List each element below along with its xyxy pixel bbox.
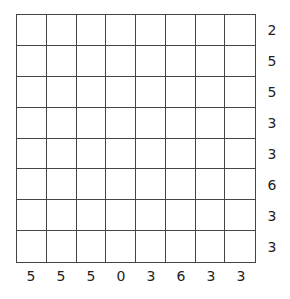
column-clue-6: 6 — [166, 265, 196, 287]
grid-cell-r6-c6[interactable] — [166, 169, 196, 200]
grid-cell-r4-c3[interactable] — [77, 108, 107, 139]
grid-cell-r3-c5[interactable] — [136, 77, 166, 108]
row-clue-8: 3 — [262, 232, 282, 263]
grid-cell-r7-c7[interactable] — [196, 200, 226, 231]
row-clue-4: 3 — [262, 107, 282, 138]
grid-cell-r3-c1[interactable] — [17, 77, 47, 108]
grid-cell-r1-c3[interactable] — [77, 15, 107, 46]
row-clue-2: 5 — [262, 45, 282, 76]
grid-cell-r2-c2[interactable] — [47, 46, 77, 77]
row-clue-3: 5 — [262, 76, 282, 107]
grid-cell-r7-c1[interactable] — [17, 200, 47, 231]
grid-cell-r2-c7[interactable] — [196, 46, 226, 77]
grid-cell-r4-c8[interactable] — [225, 108, 255, 139]
grid-cell-r6-c8[interactable] — [225, 169, 255, 200]
grid-cell-r1-c5[interactable] — [136, 15, 166, 46]
row-clue-6: 6 — [262, 170, 282, 201]
grid-cell-r3-c8[interactable] — [225, 77, 255, 108]
grid-cell-r3-c3[interactable] — [77, 77, 107, 108]
grid-cell-r2-c8[interactable] — [225, 46, 255, 77]
grid-cell-r8-c7[interactable] — [196, 231, 226, 262]
column-clue-2: 5 — [46, 265, 76, 287]
grid-cell-r5-c5[interactable] — [136, 139, 166, 170]
grid-cell-r5-c4[interactable] — [106, 139, 136, 170]
grid-cell-r6-c4[interactable] — [106, 169, 136, 200]
row-clue-5: 3 — [262, 139, 282, 170]
grid-cell-r1-c2[interactable] — [47, 15, 77, 46]
column-clue-3: 5 — [76, 265, 106, 287]
grid-cell-r2-c5[interactable] — [136, 46, 166, 77]
grid-cell-r8-c2[interactable] — [47, 231, 77, 262]
column-clues: 55503633 — [16, 265, 256, 287]
grid-cell-r2-c1[interactable] — [17, 46, 47, 77]
grid-cell-r7-c3[interactable] — [77, 200, 107, 231]
grid-cell-r5-c2[interactable] — [47, 139, 77, 170]
grid-cell-r5-c1[interactable] — [17, 139, 47, 170]
grid-cell-r8-c3[interactable] — [77, 231, 107, 262]
grid-cell-r2-c4[interactable] — [106, 46, 136, 77]
column-clue-5: 3 — [136, 265, 166, 287]
grid-cell-r6-c2[interactable] — [47, 169, 77, 200]
grid-cell-r4-c6[interactable] — [166, 108, 196, 139]
column-clue-8: 3 — [226, 265, 256, 287]
grid-cell-r6-c3[interactable] — [77, 169, 107, 200]
grid-cell-r2-c6[interactable] — [166, 46, 196, 77]
grid-cell-r4-c2[interactable] — [47, 108, 77, 139]
grid-cell-r7-c6[interactable] — [166, 200, 196, 231]
grid-cell-r2-c3[interactable] — [77, 46, 107, 77]
puzzle-grid — [16, 14, 256, 263]
row-clue-1: 2 — [262, 14, 282, 45]
grid-cell-r4-c1[interactable] — [17, 108, 47, 139]
grid-cell-r3-c6[interactable] — [166, 77, 196, 108]
grid-cell-r8-c8[interactable] — [225, 231, 255, 262]
grid-cell-r8-c4[interactable] — [106, 231, 136, 262]
grid-cell-r5-c8[interactable] — [225, 139, 255, 170]
grid-cell-r5-c3[interactable] — [77, 139, 107, 170]
grid-cell-r8-c1[interactable] — [17, 231, 47, 262]
row-clue-7: 3 — [262, 201, 282, 232]
grid-cell-r1-c7[interactable] — [196, 15, 226, 46]
grid-cell-r6-c5[interactable] — [136, 169, 166, 200]
grid-cell-r6-c7[interactable] — [196, 169, 226, 200]
grid-cell-r6-c1[interactable] — [17, 169, 47, 200]
grid-cell-r3-c7[interactable] — [196, 77, 226, 108]
grid-cell-r4-c5[interactable] — [136, 108, 166, 139]
column-clue-1: 5 — [16, 265, 46, 287]
column-clue-7: 3 — [196, 265, 226, 287]
column-clue-4: 0 — [106, 265, 136, 287]
row-clues: 25533633 — [262, 14, 282, 263]
grid-cell-r7-c2[interactable] — [47, 200, 77, 231]
grid-cell-r1-c8[interactable] — [225, 15, 255, 46]
grid-cell-r8-c6[interactable] — [166, 231, 196, 262]
grid-cell-r7-c4[interactable] — [106, 200, 136, 231]
grid-cell-r8-c5[interactable] — [136, 231, 166, 262]
grid-cell-r1-c6[interactable] — [166, 15, 196, 46]
grid-cell-r3-c2[interactable] — [47, 77, 77, 108]
grid-cell-r3-c4[interactable] — [106, 77, 136, 108]
grid-cell-r7-c8[interactable] — [225, 200, 255, 231]
grid-cell-r5-c7[interactable] — [196, 139, 226, 170]
grid-cell-r1-c1[interactable] — [17, 15, 47, 46]
grid-cell-r4-c4[interactable] — [106, 108, 136, 139]
grid-cell-r1-c4[interactable] — [106, 15, 136, 46]
grid-cell-r7-c5[interactable] — [136, 200, 166, 231]
grid-cell-r4-c7[interactable] — [196, 108, 226, 139]
grid-cell-r5-c6[interactable] — [166, 139, 196, 170]
